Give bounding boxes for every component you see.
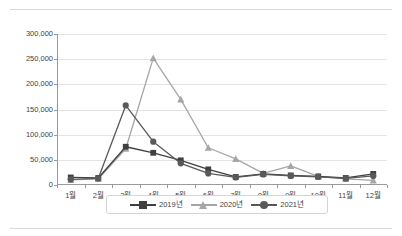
chart-page: 050,000100,000150,000200,000250,000300,0… xyxy=(0,0,402,236)
page-rule-bottom xyxy=(10,228,392,229)
data-point-marker xyxy=(260,171,266,177)
series-line xyxy=(71,58,374,180)
data-point-marker xyxy=(68,176,74,182)
data-point-marker xyxy=(150,150,156,156)
legend-item-2019년[interactable]: 2019년 xyxy=(130,199,183,210)
x-axis-tick-label: 1월 xyxy=(56,191,86,200)
y-axis-tick-label: 100,000 xyxy=(7,131,53,139)
line-chart: 050,000100,000150,000200,000250,000300,0… xyxy=(0,14,402,196)
y-axis-tick-label: 200,000 xyxy=(7,80,53,88)
legend-item-2021년[interactable]: 2021년 xyxy=(251,199,304,210)
y-axis-tick-label: 150,000 xyxy=(7,106,53,114)
series-line xyxy=(71,105,374,179)
y-axis-tick-label: 0 xyxy=(7,181,53,189)
data-point-marker xyxy=(343,175,349,181)
plot-area xyxy=(57,34,387,185)
x-axis-tick xyxy=(387,185,388,188)
data-point-marker xyxy=(287,162,294,169)
chart-legend: 2019년2020년2021년 xyxy=(106,195,328,214)
data-point-marker xyxy=(205,170,211,176)
data-point-marker xyxy=(232,155,239,162)
data-point-marker xyxy=(315,174,321,180)
data-point-marker xyxy=(205,144,212,151)
legend-label: 2019년 xyxy=(159,200,183,209)
x-axis-tick-label: 12월 xyxy=(358,191,388,200)
data-point-marker xyxy=(123,144,129,150)
data-point-marker xyxy=(123,102,129,108)
data-point-marker xyxy=(288,173,294,179)
page-rule-top xyxy=(10,9,392,10)
legend-item-2020년[interactable]: 2020년 xyxy=(191,199,244,210)
legend-label: 2020년 xyxy=(220,200,244,209)
y-axis-labels: 050,000100,000150,000200,000250,000300,0… xyxy=(5,34,53,185)
series-plot xyxy=(57,34,387,185)
data-point-marker xyxy=(150,139,156,145)
data-point-marker xyxy=(177,96,184,103)
data-point-marker xyxy=(178,160,184,166)
legend-label: 2021년 xyxy=(280,200,304,209)
y-axis-tick-label: 300,000 xyxy=(7,30,53,38)
series-line xyxy=(71,147,374,178)
legend-key-icon xyxy=(251,199,277,210)
x-axis-tick-label: 11월 xyxy=(331,191,361,200)
y-axis-tick-label: 250,000 xyxy=(7,55,53,63)
y-axis-tick-label: 50,000 xyxy=(7,156,53,164)
legend-key-icon xyxy=(191,199,217,210)
legend-key-icon xyxy=(130,199,156,210)
data-point-marker xyxy=(233,174,239,180)
data-point-marker xyxy=(370,173,376,179)
data-point-marker xyxy=(150,55,157,62)
data-point-marker xyxy=(95,175,101,181)
